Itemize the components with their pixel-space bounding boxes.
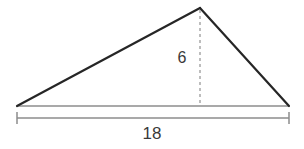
figure-canvas: 6 18 bbox=[0, 0, 304, 149]
triangle-left-side bbox=[17, 8, 200, 106]
base-length-label: 18 bbox=[143, 124, 162, 143]
triangle-diagram: 6 18 bbox=[0, 0, 304, 149]
triangle-right-side bbox=[200, 8, 289, 106]
height-label: 6 bbox=[178, 49, 187, 66]
